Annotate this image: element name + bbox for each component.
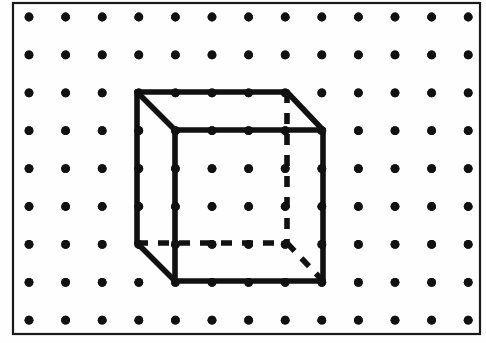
grid-dot <box>427 202 436 211</box>
grid-dot <box>208 51 217 60</box>
grid-dot <box>391 278 400 287</box>
grid-dot <box>244 240 253 249</box>
grid-dot <box>281 126 290 135</box>
grid-dot <box>98 164 107 173</box>
grid-dot <box>244 316 253 325</box>
grid-dot <box>98 88 107 97</box>
grid-dot <box>281 316 290 325</box>
grid-dot <box>354 202 363 211</box>
grid-dot <box>317 126 326 135</box>
grid-dot <box>391 126 400 135</box>
grid-dot <box>134 202 143 211</box>
grid-dot <box>391 316 400 325</box>
grid-dot <box>244 13 253 22</box>
grid-dot <box>25 278 34 287</box>
grid-dot <box>61 240 70 249</box>
grid-dot <box>134 51 143 60</box>
grid-dot <box>98 202 107 211</box>
grid-dot <box>464 88 473 97</box>
grid-dot <box>25 316 34 325</box>
grid-dot <box>464 278 473 287</box>
grid-dot <box>208 164 217 173</box>
grid-dot <box>134 240 143 249</box>
grid-dot <box>25 202 34 211</box>
grid-dot <box>171 126 180 135</box>
grid-dot <box>171 316 180 325</box>
grid-dot <box>281 278 290 287</box>
grid-dot <box>244 202 253 211</box>
grid-dot <box>391 164 400 173</box>
grid-dot <box>244 88 253 97</box>
grid-dot <box>427 316 436 325</box>
grid-dot <box>208 316 217 325</box>
grid-dot <box>171 240 180 249</box>
grid-dot <box>317 88 326 97</box>
grid-dot <box>427 51 436 60</box>
grid-dot <box>171 278 180 287</box>
grid-dot <box>317 202 326 211</box>
grid-dot <box>354 316 363 325</box>
grid-dot <box>391 51 400 60</box>
grid-dot <box>208 88 217 97</box>
grid-dot <box>427 164 436 173</box>
grid-dot <box>61 126 70 135</box>
grid-dot <box>427 278 436 287</box>
grid-dot <box>244 278 253 287</box>
grid-dot <box>281 88 290 97</box>
grid-dot <box>354 278 363 287</box>
grid-dot <box>98 278 107 287</box>
grid-dot <box>25 13 34 22</box>
grid-dot <box>171 13 180 22</box>
grid-dot <box>134 316 143 325</box>
grid-dot <box>317 51 326 60</box>
grid-dot <box>134 164 143 173</box>
grid-dot <box>171 202 180 211</box>
grid-dot <box>464 240 473 249</box>
grid-dot <box>25 164 34 173</box>
grid-dot <box>427 13 436 22</box>
grid-dot <box>464 126 473 135</box>
grid-dot <box>464 13 473 22</box>
grid-dot <box>208 240 217 249</box>
grid-dot <box>61 202 70 211</box>
grid-dot <box>134 88 143 97</box>
grid-dot <box>391 88 400 97</box>
grid-dot <box>25 240 34 249</box>
grid-dot <box>464 164 473 173</box>
grid-dot <box>244 51 253 60</box>
grid-dot <box>317 316 326 325</box>
grid-dot <box>281 202 290 211</box>
grid-dot <box>391 13 400 22</box>
grid-dot <box>61 13 70 22</box>
grid-dot <box>98 240 107 249</box>
grid-dot <box>317 164 326 173</box>
grid-dot <box>244 164 253 173</box>
grid-dot <box>61 51 70 60</box>
grid-dot <box>25 88 34 97</box>
grid-dot <box>61 316 70 325</box>
grid-dot <box>317 13 326 22</box>
grid-dot <box>25 126 34 135</box>
grid-dot <box>25 51 34 60</box>
grid-dot <box>317 240 326 249</box>
grid-dot <box>171 164 180 173</box>
grid-dot <box>134 278 143 287</box>
grid-dot <box>354 13 363 22</box>
grid-dot <box>208 126 217 135</box>
grid-dot <box>98 126 107 135</box>
grid-dot <box>354 126 363 135</box>
grid-dot <box>98 51 107 60</box>
grid-dot <box>61 88 70 97</box>
grid-dot <box>427 126 436 135</box>
grid-dot <box>464 316 473 325</box>
grid-dot <box>208 278 217 287</box>
grid-dot <box>244 126 253 135</box>
grid-dot <box>354 88 363 97</box>
grid-dot <box>354 240 363 249</box>
grid-dot <box>464 202 473 211</box>
grid-dot <box>61 278 70 287</box>
grid-dot <box>208 13 217 22</box>
grid-dot <box>281 51 290 60</box>
grid-dot <box>427 240 436 249</box>
grid-dot <box>98 316 107 325</box>
